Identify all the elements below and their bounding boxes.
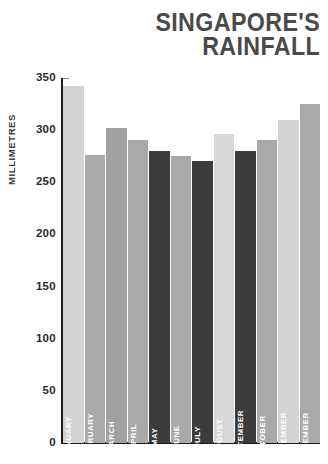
bar-column[interactable]: OCTOBER <box>257 78 278 443</box>
bar-label: MARCH <box>107 421 116 453</box>
bar-label: JULY <box>193 426 202 448</box>
bar-column[interactable]: JANUARY <box>63 78 84 443</box>
y-tick-label: 250 <box>0 175 56 187</box>
bar-column[interactable]: MAY <box>149 78 170 443</box>
y-tick-label: 50 <box>0 384 56 396</box>
bar[interactable]: APRIL <box>128 140 149 443</box>
bar-label: DECEMBER <box>301 412 310 462</box>
bar-label: AUGUST <box>215 419 224 456</box>
bar[interactable]: MARCH <box>106 128 127 443</box>
bar-label: OCTOBER <box>258 415 267 458</box>
bar-column[interactable]: DECEMBER <box>300 78 321 443</box>
bar[interactable]: MAY <box>149 151 170 443</box>
rainfall-chart: SINGAPORE'S RAINFALL MILLIMETRES 3503002… <box>0 0 328 464</box>
y-tick-label: 0 <box>0 436 56 448</box>
bar-column[interactable]: MARCH <box>106 78 127 443</box>
bar-label: FEBRUARY <box>86 413 95 461</box>
bar-label: NOVEMBER <box>279 412 288 462</box>
bar-label: SEPTEMBER <box>236 410 245 464</box>
bar[interactable]: SEPTEMBER <box>235 151 256 443</box>
bar-column[interactable]: APRIL <box>128 78 149 443</box>
bar-series: JANUARYFEBRUARYMARCHAPRILMAYJUNEJULYAUGU… <box>63 78 320 443</box>
chart-title: SINGAPORE'S RAINFALL <box>155 10 320 58</box>
bar-column[interactable]: AUGUST <box>214 78 235 443</box>
chart-title-line-2: RAINFALL <box>155 34 320 58</box>
bar[interactable]: AUGUST <box>214 134 235 443</box>
y-tick-label: 100 <box>0 332 56 344</box>
bar-column[interactable]: JULY <box>192 78 213 443</box>
bar-column[interactable]: FEBRUARY <box>85 78 106 443</box>
y-tick-label: 300 <box>0 123 56 135</box>
bar[interactable]: OCTOBER <box>257 140 278 443</box>
bar[interactable]: DECEMBER <box>300 104 321 443</box>
bar[interactable]: NOVEMBER <box>278 120 299 443</box>
bar[interactable]: JULY <box>192 161 213 443</box>
y-tick-label: 150 <box>0 280 56 292</box>
bar[interactable]: JANUARY <box>63 86 84 443</box>
bar-label: JUNE <box>172 425 181 448</box>
bar[interactable]: FEBRUARY <box>85 155 106 443</box>
plot-area: JANUARYFEBRUARYMARCHAPRILMAYJUNEJULYAUGU… <box>63 78 320 443</box>
y-tick-label: 350 <box>0 71 56 83</box>
bar-column[interactable]: SEPTEMBER <box>235 78 256 443</box>
y-tick-label: 200 <box>0 227 56 239</box>
bar[interactable]: JUNE <box>171 156 192 443</box>
chart-title-line-1: SINGAPORE'S <box>155 10 320 34</box>
bar-column[interactable]: NOVEMBER <box>278 78 299 443</box>
bar-column[interactable]: JUNE <box>171 78 192 443</box>
bar-label: JANUARY <box>64 416 73 458</box>
bar-label: APRIL <box>129 424 138 451</box>
